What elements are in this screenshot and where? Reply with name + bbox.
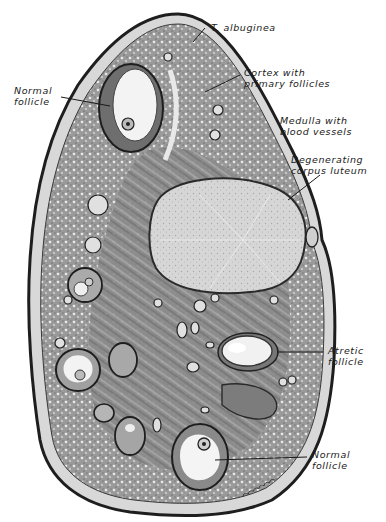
label-t-albuginea: T. albuginea bbox=[211, 22, 276, 33]
normal-follicle-bottom bbox=[172, 424, 228, 490]
label-corpus-luteum: Degenerating corpus luteum bbox=[291, 154, 367, 176]
normal-follicle-top bbox=[99, 64, 163, 152]
ovary-diagram: T. albuginea Cortex with primary follicl… bbox=[0, 0, 386, 522]
atretic-follicle bbox=[218, 333, 278, 371]
atretic-small-follicle bbox=[109, 343, 137, 377]
vesicular-follicle-left bbox=[56, 349, 100, 391]
label-cortex: Cortex with primary follicles bbox=[244, 67, 330, 89]
label-medulla: Medulla with blood vessels bbox=[280, 115, 352, 137]
secondary-follicle-left bbox=[68, 268, 102, 302]
label-normal-follicle-bottom: Normal follicle bbox=[312, 449, 350, 471]
label-normal-follicle-top: Normal follicle bbox=[14, 85, 52, 107]
label-atretic-follicle: Atretic follicle bbox=[328, 345, 364, 367]
